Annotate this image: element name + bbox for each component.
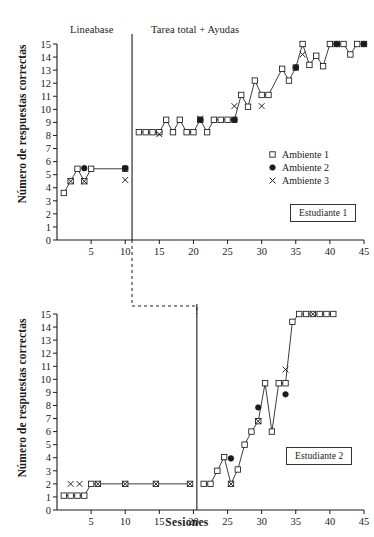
y-tick-label: 15 (41, 39, 52, 50)
filled-circle-icon (268, 163, 277, 172)
data-point-cross (77, 481, 83, 487)
data-point-open-square (348, 52, 353, 57)
y-tick-label: 2 (46, 479, 51, 490)
data-point-open-square (61, 190, 66, 195)
y-tick-label: 8 (46, 130, 51, 141)
y-tick-label: 14 (41, 322, 52, 333)
y-tick-label: 4 (46, 452, 52, 463)
data-point-open-square (191, 130, 196, 135)
x-tick-label: 20 (188, 246, 199, 257)
data-point-open-square (341, 41, 346, 46)
data-point-open-square (300, 41, 305, 46)
legend-item-3: Ambiente 3 (268, 174, 329, 187)
data-point-open-square (136, 130, 141, 135)
y-tick-label: 5 (46, 439, 51, 450)
data-point-open-square (88, 166, 93, 171)
data-point-filled-circle (122, 165, 128, 171)
plot-area-top: 012345678910111213141551015202530354045 (0, 0, 374, 268)
y-tick-label: 12 (41, 348, 52, 359)
data-point-open-square (68, 493, 73, 498)
x-tick-label: 40 (325, 246, 336, 257)
data-point-filled-circle (228, 456, 234, 462)
y-tick-label: 6 (46, 426, 51, 437)
data-point-open-square (208, 481, 213, 486)
y-tick-label: 13 (41, 65, 52, 76)
y-tick-label: 15 (41, 309, 52, 320)
data-point-open-square (286, 78, 291, 83)
open-square-glyph (270, 152, 275, 157)
data-point-cross (300, 52, 306, 58)
series-line (139, 44, 364, 132)
data-point-filled-circle (293, 65, 299, 71)
data-point-open-square (317, 311, 322, 316)
data-point-open-square (320, 64, 325, 69)
data-point-open-square (314, 53, 319, 58)
data-point-filled-circle (81, 165, 87, 171)
x-tick-label: 15 (154, 246, 165, 257)
data-point-open-square (276, 381, 281, 386)
data-point-open-square (75, 493, 80, 498)
legend-item-label: Ambiente 2 (282, 161, 329, 174)
data-point-cross (68, 481, 74, 487)
x-tick-label: 45 (359, 246, 370, 257)
y-tick-label: 14 (41, 52, 52, 63)
data-point-open-square (88, 481, 93, 486)
data-point-cross (231, 103, 237, 109)
data-point-open-square (211, 117, 216, 122)
data-point-open-square (249, 429, 254, 434)
data-point-open-square (204, 130, 209, 135)
multiple-baseline-figure: Número de respuestas correctas Número de… (0, 0, 374, 537)
data-point-open-square (245, 104, 250, 109)
data-point-open-square (283, 381, 288, 386)
y-tick-label: 11 (41, 91, 51, 102)
data-point-open-square (82, 493, 87, 498)
legend-item-label: Ambiente 1 (282, 148, 329, 161)
data-point-open-square (221, 454, 226, 459)
data-point-open-square (218, 117, 223, 122)
data-point-open-square (290, 319, 295, 324)
y-tick-label: 3 (46, 466, 51, 477)
y-tick-label: 9 (46, 117, 51, 128)
y-tick-label: 13 (41, 335, 52, 346)
legend-item-1: Ambiente 1 (268, 148, 329, 161)
data-point-open-square (143, 130, 148, 135)
data-point-open-square (259, 92, 264, 97)
y-tick-label: 2 (46, 209, 51, 220)
panel-label-estudiante-1: Estudiante 1 (290, 204, 356, 222)
data-point-open-square (177, 117, 182, 122)
data-point-open-square (75, 166, 80, 171)
y-tick-label: 1 (46, 492, 51, 503)
data-point-open-square (201, 481, 206, 486)
y-tick-label: 1 (46, 222, 51, 233)
x-tick-label: 35 (291, 246, 302, 257)
y-tick-label: 12 (41, 78, 52, 89)
y-tick-label: 10 (41, 104, 52, 115)
cross-glyph (270, 178, 276, 184)
data-point-open-square (303, 311, 308, 316)
data-point-open-square (327, 41, 332, 46)
y-tick-label: 7 (46, 413, 51, 424)
data-point-open-square (163, 117, 168, 122)
data-point-filled-circle (283, 392, 289, 398)
y-tick-label: 5 (46, 169, 51, 180)
data-point-open-square (262, 381, 267, 386)
y-tick-label: 7 (46, 143, 51, 154)
chart-panel-estudiante-1: 012345678910111213141551015202530354045 (0, 0, 374, 268)
data-point-open-square (150, 130, 155, 135)
legend-item-label: Ambiente 3 (282, 174, 329, 187)
cross-icon (268, 176, 277, 185)
filled-circle-glyph (270, 165, 276, 171)
data-point-open-square (170, 130, 175, 135)
data-point-open-square (225, 117, 230, 122)
open-square-icon (268, 150, 277, 159)
data-point-cross (259, 103, 265, 109)
data-point-open-square (269, 429, 274, 434)
data-point-open-square (324, 311, 329, 316)
data-point-open-square (242, 442, 247, 447)
data-point-open-square (266, 92, 271, 97)
plot-area-bottom: 012345678910111213141551015202530354045 (0, 268, 374, 537)
data-point-open-square (184, 130, 189, 135)
data-point-open-square (239, 92, 244, 97)
data-point-cross (283, 367, 289, 373)
y-tick-label: 10 (41, 374, 52, 385)
